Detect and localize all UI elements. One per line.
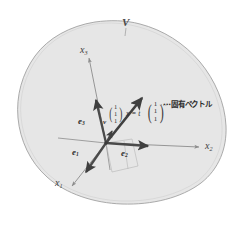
label-axis-x2: x2 [205,141,213,152]
label-vector-v: v [103,119,106,126]
label-eigenvector-annotation: ···固有ベクトル [163,101,212,109]
label-axis-x3: x3 [80,45,88,56]
label-basis-e3: e3 [78,117,85,127]
right-paren-open: ( [148,102,152,121]
label-axis-x1: x1 [55,178,63,189]
label-axis-x2-sub: 2 [209,145,212,152]
result-component-3: 1 [154,115,158,123]
label-axis-x3-sub: 3 [84,49,87,56]
result-vector-components: 111 [153,101,157,123]
origin-point [104,141,107,144]
label-basis-e2-sub: 2 [125,152,128,158]
eigen-vector-components: 111 [114,104,118,125]
label-basis-e1: e1 [72,148,79,158]
label-eigen-equation: x = t [126,110,140,118]
left-paren-close: ) [119,107,122,122]
label-basis-e3-sub: 3 [82,120,85,126]
label-basis-e2: e2 [121,149,128,159]
eigen-vector-column-left: (111) [108,104,123,125]
component-3: 1 [114,117,117,124]
left-paren-open: ( [109,107,112,122]
label-vector-space-v: V [122,17,129,28]
label-basis-e1-sub: 1 [76,151,79,157]
label-axis-x1-sub: 1 [59,182,62,189]
